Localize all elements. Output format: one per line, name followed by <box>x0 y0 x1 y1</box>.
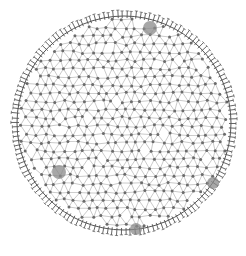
mesh-edge <box>120 208 128 216</box>
mesh-node <box>63 134 66 137</box>
mesh-edge <box>116 52 122 61</box>
top-right-blob <box>143 21 157 35</box>
mesh-edge <box>101 143 108 151</box>
mesh-node <box>97 192 100 195</box>
mesh-edge <box>125 109 129 118</box>
mesh-node <box>40 173 43 176</box>
mesh-edge <box>46 93 50 102</box>
rim-spine-tip <box>235 104 236 107</box>
mesh-node <box>73 34 76 37</box>
mesh-node <box>129 166 132 169</box>
mesh-edge <box>78 125 84 135</box>
mesh-node <box>123 191 126 194</box>
mesh-node <box>144 75 147 78</box>
mesh-edge <box>183 102 189 111</box>
mesh-edge <box>36 134 46 135</box>
mesh-edge <box>182 125 188 135</box>
mesh-node <box>173 43 176 46</box>
mesh-node <box>111 84 114 87</box>
mesh-node <box>178 84 181 87</box>
mesh-edge <box>132 67 135 77</box>
mesh-edge <box>96 35 103 42</box>
mesh-edge <box>68 109 75 117</box>
mesh-node <box>177 33 180 36</box>
mesh-edge <box>83 176 89 185</box>
mesh-node <box>218 157 221 160</box>
mesh-node <box>102 199 105 202</box>
mesh-edge <box>188 158 194 167</box>
mesh-edge <box>159 36 165 44</box>
mesh-edge <box>164 84 170 93</box>
mesh-node <box>91 149 94 152</box>
mesh-edge <box>149 191 155 200</box>
mesh-edge <box>87 110 99 111</box>
mesh-edge <box>78 93 85 102</box>
mesh-edge <box>182 92 192 93</box>
mesh-node <box>187 100 190 103</box>
mesh-edge <box>172 135 180 144</box>
mesh-node <box>67 206 70 209</box>
mesh-edge <box>164 191 170 199</box>
spiny-rim <box>11 10 237 236</box>
mesh-edge <box>64 183 69 193</box>
mesh-edge <box>103 67 107 78</box>
mesh-node <box>110 215 113 218</box>
mesh-node <box>63 197 66 200</box>
mesh-edge <box>53 184 60 193</box>
mesh-node <box>40 142 43 145</box>
mesh-edge <box>220 111 226 120</box>
rim-spine-tip <box>92 14 95 15</box>
mesh-edge <box>201 84 206 93</box>
mesh-node <box>200 124 203 127</box>
mesh-node <box>121 68 124 71</box>
mesh-edge <box>127 76 132 86</box>
mesh-node <box>40 108 43 111</box>
rim-spine-tip <box>13 103 14 106</box>
rim-spine <box>198 43 204 49</box>
mesh-node <box>115 92 118 95</box>
rim-spine <box>46 42 52 48</box>
mesh-edge <box>73 68 79 77</box>
mesh-node <box>44 66 47 69</box>
mesh-edge <box>135 183 142 192</box>
mesh-edge <box>134 109 141 116</box>
mesh-edge <box>21 141 25 151</box>
mesh-node <box>176 99 179 102</box>
mesh-node <box>144 175 147 178</box>
mesh-edge <box>182 141 187 151</box>
mesh-node <box>107 60 110 63</box>
mesh-node <box>218 93 221 96</box>
mesh-node <box>88 174 91 177</box>
rim-spine <box>16 148 23 150</box>
rim-spine-tip <box>147 232 150 233</box>
mesh-node <box>49 191 52 194</box>
mesh-node <box>219 140 222 143</box>
mesh-node <box>143 140 146 143</box>
mesh-edge <box>77 168 82 177</box>
mesh-edge <box>116 183 120 193</box>
rim-spine-tip <box>149 13 152 14</box>
mesh-node <box>63 99 66 102</box>
mesh-node <box>196 183 199 186</box>
rim-spine <box>15 100 22 101</box>
mesh-edge <box>32 126 36 136</box>
mesh-node <box>204 83 207 86</box>
mesh-node <box>93 116 96 119</box>
mesh-node <box>130 66 133 69</box>
mesh-edge <box>215 142 220 151</box>
mesh-node <box>128 117 131 120</box>
mesh-edge <box>102 118 113 119</box>
mesh-node <box>101 52 104 55</box>
mesh-edge <box>160 159 164 168</box>
mesh-edge <box>196 110 201 119</box>
mesh-edge <box>32 150 38 160</box>
mesh-node <box>91 83 94 86</box>
mesh-node <box>167 215 170 218</box>
mesh-node <box>171 74 174 77</box>
mesh-edge <box>78 141 82 150</box>
mesh-node <box>100 117 103 120</box>
mesh-edge <box>169 59 172 69</box>
mesh-node <box>191 125 194 128</box>
mesh-node <box>133 208 136 211</box>
rim-spine <box>103 226 104 234</box>
